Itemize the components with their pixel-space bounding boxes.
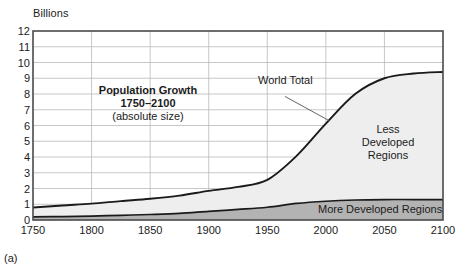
population-growth-figure: Billions 0123456789101112 17501800185019… bbox=[0, 0, 470, 277]
chart-title-line2: 1750–2100 bbox=[83, 97, 213, 110]
less-developed-regions-label: Less Developed Regions bbox=[346, 123, 430, 162]
less-developed-line3: Regions bbox=[368, 149, 408, 161]
chart-title-block: Population Growth 1750–2100 (absolute si… bbox=[83, 84, 213, 123]
world-total-label: World Total bbox=[258, 74, 338, 87]
chart-title-line1: Population Growth bbox=[83, 84, 213, 97]
more-developed-regions-label: More Developed Regions bbox=[318, 203, 442, 216]
chart-title-line3: (absolute size) bbox=[83, 110, 213, 123]
less-developed-line2: Developed bbox=[362, 136, 415, 148]
less-developed-line1: Less bbox=[376, 123, 399, 135]
panel-letter: (a) bbox=[4, 252, 17, 264]
